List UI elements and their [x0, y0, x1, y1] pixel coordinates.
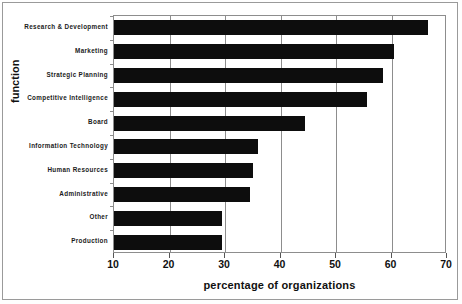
x-axis-tick-label: 40 [274, 259, 286, 270]
category-label: Production [71, 238, 108, 244]
bar-group [114, 16, 445, 252]
category-label: Marketing [75, 48, 108, 54]
category-label: Strategic Planning [46, 71, 108, 77]
plot-area [113, 15, 446, 253]
category-label: Administrative [59, 190, 108, 196]
bar [114, 211, 222, 226]
y-axis-tick [110, 87, 114, 88]
bar [114, 92, 367, 107]
x-axis-tick-label: 20 [163, 259, 175, 270]
bar [114, 139, 258, 154]
category-label: Information Technology [29, 143, 108, 149]
category-label: Competitive Intelligence [27, 95, 108, 101]
y-axis-tick [110, 230, 114, 231]
y-axis-tick [110, 135, 114, 136]
category-label-group: Research & DevelopmentMarketingStrategic… [13, 15, 111, 253]
y-axis-tick [110, 206, 114, 207]
y-axis-tick [110, 111, 114, 112]
category-label: Human Resources [47, 167, 108, 173]
y-axis-tick [110, 40, 114, 41]
x-axis-title: percentage of organizations [113, 279, 446, 291]
bar [114, 235, 222, 250]
x-axis-tick-label: 50 [329, 259, 341, 270]
bar [114, 20, 428, 35]
y-axis-tick [110, 16, 114, 17]
bar [114, 163, 253, 178]
category-label: Research & Development [24, 24, 108, 30]
category-label: Board [88, 119, 108, 125]
y-axis-tick [110, 64, 114, 65]
x-axis-tick-label: 70 [440, 259, 452, 270]
bar [114, 44, 394, 59]
x-axis-tick-label: 10 [107, 259, 119, 270]
y-axis-tick [110, 159, 114, 160]
x-axis-tick-label: 30 [218, 259, 230, 270]
bar [114, 116, 305, 131]
y-axis-tick [110, 183, 114, 184]
category-label: Other [89, 214, 108, 220]
figure-frame: function Research & DevelopmentMarketing… [2, 2, 458, 300]
bar [114, 187, 250, 202]
x-axis-tick-label: 60 [385, 259, 397, 270]
bar [114, 68, 383, 83]
chart-screenshot: function Research & DevelopmentMarketing… [0, 0, 462, 304]
